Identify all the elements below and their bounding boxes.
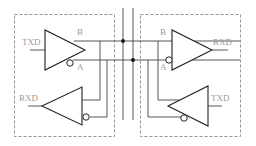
- left-rxd-label: RXD: [19, 93, 39, 103]
- right-node-enclosure: [141, 15, 241, 137]
- right-receiver-triangle: [172, 30, 212, 70]
- right-b-label: B: [160, 27, 166, 37]
- junction-dot-a: [131, 58, 135, 62]
- rs485-diagram: TXD B A RXD B A RXD TXD: [0, 0, 256, 146]
- left-txd-label: TXD: [22, 37, 41, 47]
- right-driver-inverting-bubble: [181, 115, 187, 121]
- right-driver-triangle: [168, 86, 208, 126]
- left-node-enclosure: [15, 15, 115, 137]
- left-receiver-inverting-bubble: [83, 114, 89, 120]
- right-txd-label: TXD: [211, 93, 230, 103]
- left-receiver-triangle: [42, 87, 82, 125]
- left-a-label: A: [77, 62, 84, 72]
- right-rxd-label: RXD: [213, 37, 233, 47]
- left-b-label: B: [77, 27, 83, 37]
- right-a-label: A: [160, 62, 167, 72]
- junction-dot-b: [121, 39, 125, 43]
- right-receiver-inverting-bubble: [166, 57, 172, 63]
- left-driver-inverting-bubble: [67, 60, 73, 66]
